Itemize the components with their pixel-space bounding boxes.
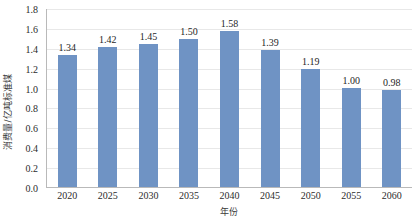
bar[interactable]: 1.45 (139, 44, 158, 187)
bar-slot: 1.19 (290, 9, 331, 187)
y-tick-label: 0.8 (26, 103, 39, 114)
bar-value-label: 1.39 (261, 37, 279, 48)
y-tick-label: 1.8 (26, 4, 39, 15)
x-axis-line (46, 187, 412, 188)
y-tick-label: 1.6 (26, 23, 39, 34)
y-tick-label: 1.0 (26, 83, 39, 94)
bar[interactable]: 1.00 (342, 88, 361, 187)
bar-value-label: 1.34 (59, 42, 77, 53)
bar-slot: 0.98 (372, 9, 413, 187)
y-tick-label: 0.6 (26, 123, 39, 134)
y-tick-label: 1.4 (26, 43, 39, 54)
x-tick-label: 2025 (88, 190, 129, 205)
bar-value-label: 0.98 (383, 77, 401, 88)
x-axis-title: 年份 (46, 205, 412, 218)
bar-slot: 1.42 (88, 9, 129, 187)
bar-slot: 1.39 (250, 9, 291, 187)
x-tick-label: 2050 (290, 190, 331, 205)
bar-value-label: 1.19 (302, 56, 320, 67)
bar[interactable]: 1.50 (179, 39, 198, 187)
bar-value-label: 1.58 (221, 18, 239, 29)
plot-area: 1.341.421.451.501.581.391.191.000.98 (46, 9, 412, 188)
bar-chart: 消费量/亿吨标准煤 0.00.20.40.60.81.01.21.41.61.8… (0, 0, 418, 224)
x-tick-label: 2045 (250, 190, 291, 205)
x-tick-label: 2040 (209, 190, 250, 205)
bar[interactable]: 1.19 (301, 69, 320, 187)
bar[interactable]: 1.39 (261, 50, 280, 187)
y-tick-label: 0.2 (26, 163, 39, 174)
bar-slot: 1.00 (331, 9, 372, 187)
x-tick-label: 2035 (169, 190, 210, 205)
x-tick-label: 2020 (47, 190, 88, 205)
x-tick-label: 2060 (372, 190, 413, 205)
x-tick-label: 2030 (128, 190, 169, 205)
bar-slot: 1.45 (128, 9, 169, 187)
bar-value-label: 1.42 (99, 34, 117, 45)
bar[interactable]: 1.58 (220, 31, 239, 187)
bar[interactable]: 1.42 (98, 47, 117, 187)
bar-value-label: 1.50 (180, 26, 198, 37)
bar[interactable]: 1.34 (58, 55, 77, 188)
bar-value-label: 1.45 (140, 31, 158, 42)
bar-slot: 1.58 (209, 9, 250, 187)
x-axis-tick-labels: 202020252030203520402045205020552060 (47, 190, 412, 205)
bar-slot: 1.34 (47, 9, 88, 187)
bar[interactable]: 0.98 (382, 90, 401, 187)
y-axis-tick-labels: 0.00.20.40.60.81.01.21.41.61.8 (0, 9, 42, 188)
bar-value-label: 1.00 (342, 75, 360, 86)
x-tick-label: 2055 (331, 190, 372, 205)
bar-slot: 1.50 (169, 9, 210, 187)
y-tick-label: 0.0 (26, 183, 39, 194)
y-tick-label: 0.4 (26, 143, 39, 154)
y-tick-label: 1.2 (26, 63, 39, 74)
bar-series: 1.341.421.451.501.581.391.191.000.98 (47, 9, 412, 187)
